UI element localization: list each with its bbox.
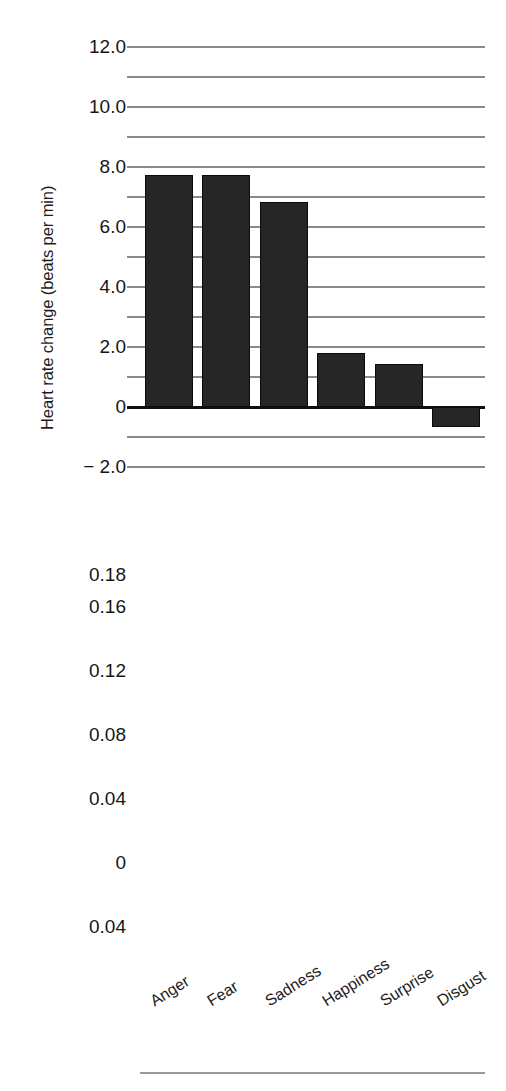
y-tick-label: 0.08 bbox=[48, 725, 126, 744]
bottom-rule-divider bbox=[140, 1072, 485, 1074]
y-tick-label-text: 0 bbox=[115, 397, 126, 416]
y-tick-label: 4.0 bbox=[48, 277, 126, 296]
y-tick-label-text: 0.08 bbox=[89, 725, 126, 744]
y-tick-label-text: 0.18 bbox=[89, 565, 126, 584]
axis-tick bbox=[127, 106, 140, 108]
gridline bbox=[140, 436, 485, 438]
bar-disgust bbox=[432, 407, 480, 427]
axis-tick bbox=[127, 136, 140, 138]
gridline bbox=[140, 76, 485, 78]
y-tick-label-text: 2.0 bbox=[100, 337, 126, 356]
y-tick-label: 0.16 bbox=[48, 597, 126, 616]
y-tick-label: 10.0 bbox=[48, 97, 126, 116]
bar-fear bbox=[202, 175, 250, 408]
y-tick-label-text: 0.04 bbox=[89, 917, 126, 936]
axis-tick bbox=[127, 286, 140, 288]
bar-happiness bbox=[317, 353, 365, 407]
y-tick-label-text: 10.0 bbox=[89, 97, 126, 116]
y-tick-label: 12.0 bbox=[48, 37, 126, 56]
gridline bbox=[140, 136, 485, 138]
y-tick-label: 0.04 bbox=[48, 789, 126, 808]
axis-tick bbox=[127, 466, 140, 468]
gridline bbox=[140, 46, 485, 48]
axis-tick bbox=[127, 226, 140, 228]
axis-tick bbox=[127, 436, 140, 438]
x-category-label-anger: Anger bbox=[147, 972, 193, 1010]
axis-tick bbox=[127, 76, 140, 78]
gridline bbox=[140, 466, 485, 468]
figure-two-panel-bar-charts: Heart rate change (beats per min) 12.010… bbox=[0, 0, 506, 1091]
y-tick-label-text: 0 bbox=[115, 853, 126, 872]
axis-tick bbox=[127, 166, 140, 168]
y-tick-label: 6.0 bbox=[48, 217, 126, 236]
y-tick-label: 0 bbox=[48, 397, 126, 416]
y-tick-label-text: 6.0 bbox=[100, 217, 126, 236]
y-tick-label-text: 8.0 bbox=[100, 157, 126, 176]
axis-tick bbox=[127, 196, 140, 198]
y-tick-label: 0.12 bbox=[48, 661, 126, 680]
x-category-label-sadness: Sadness bbox=[262, 962, 324, 1010]
y-tick-label-text: − 2.0 bbox=[83, 457, 126, 476]
axis-tick bbox=[127, 346, 140, 348]
y-tick-label-text: 0.16 bbox=[89, 597, 126, 616]
temperature-panel: Temperature change (degrees centigrade) … bbox=[0, 540, 506, 1091]
y-tick-label: 0.18 bbox=[48, 565, 126, 584]
y-tick-label-text: 4.0 bbox=[100, 277, 126, 296]
y-tick-label: 0.04 bbox=[48, 917, 126, 936]
gridline bbox=[140, 166, 485, 168]
y-tick-label: 2.0 bbox=[48, 337, 126, 356]
y-tick-label: − 2.0 bbox=[48, 457, 126, 476]
axis-tick bbox=[127, 316, 140, 318]
heart-rate-plot-area bbox=[140, 47, 485, 467]
axis-tick bbox=[127, 256, 140, 258]
y-tick-label-text: 0.04 bbox=[89, 789, 126, 808]
x-category-label-disgust: Disgust bbox=[434, 967, 489, 1011]
y-tick-label-text: 12.0 bbox=[89, 37, 126, 56]
bar-sadness bbox=[260, 202, 308, 408]
x-category-label-fear: Fear bbox=[204, 978, 241, 1011]
y-tick-label: 0 bbox=[48, 853, 126, 872]
bar-surprise bbox=[375, 364, 423, 408]
heart-rate-panel: Heart rate change (beats per min) 12.010… bbox=[0, 0, 506, 540]
y-tick-label: 8.0 bbox=[48, 157, 126, 176]
bar-anger bbox=[145, 175, 193, 408]
axis-tick bbox=[127, 46, 140, 48]
axis-tick bbox=[127, 406, 140, 409]
gridline bbox=[140, 106, 485, 108]
axis-tick bbox=[127, 376, 140, 378]
y-tick-label-text: 0.12 bbox=[89, 661, 126, 680]
